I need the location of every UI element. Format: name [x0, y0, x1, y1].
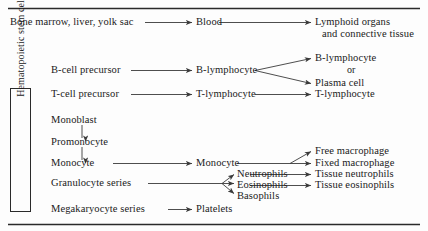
node-t-lymphocyte-mid: T-lymphocyte	[196, 88, 256, 100]
node-platelets: Platelets	[196, 203, 232, 215]
node-fixed-macrophage: Fixed macrophage	[315, 157, 394, 169]
arrow-blymph-to-blymph-end	[255, 59, 311, 71]
node-eosinophils: Eosinophils	[237, 179, 288, 191]
node-t-cell-precursor: T-cell precursor	[51, 88, 119, 100]
node-monocyte-mid: Monocyte	[196, 157, 239, 169]
node-monoblast: Monoblast	[51, 114, 97, 126]
node-basophils: Basophils	[237, 190, 279, 202]
arrow-granulocyte-to-neutrophils	[222, 175, 234, 184]
node-blood: Blood	[196, 16, 222, 28]
node-b-cell-precursor: B-cell precursor	[51, 64, 121, 76]
node-lymphoid-organs-line1: Lymphoid organs	[315, 16, 390, 28]
node-monocyte-left: Monocyte	[51, 157, 94, 169]
arrow-blymph-to-plasma-cell	[255, 71, 311, 84]
node-lymphoid-organs-line2: and connective tissue	[322, 28, 414, 40]
node-plasma-cell: Plasma cell	[315, 77, 364, 89]
arrow-monocyte-to-free-macrophage	[290, 152, 311, 164]
arrow-granulocyte-to-basophils	[222, 184, 234, 194]
node-tissue-eosinophils: Tissue eosinophils	[315, 179, 394, 191]
node-b-lymphocyte-end: B-lymphocyte	[315, 52, 376, 64]
node-neutrophils: Neutrophils	[237, 168, 288, 180]
figure-canvas: Hematopoietic stem cell Bone marrow, liv…	[0, 0, 428, 231]
node-promonocyte: Promonocyte	[51, 136, 108, 148]
node-free-macrophage: Free macrophage	[315, 145, 389, 157]
node-tissue-neutrophils: Tissue neutrophils	[315, 168, 394, 180]
node-b-lymphocyte-mid: B-lymphocyte	[196, 64, 257, 76]
node-granulocyte-series: Granulocyte series	[51, 177, 131, 189]
node-megakaryocyte-series: Megakaryocyte series	[51, 203, 145, 215]
node-or-label: or	[347, 64, 356, 76]
node-t-lymphocyte-end: T-lymphocyte	[315, 88, 375, 100]
node-origin: Bone marrow, liver, yolk sac	[10, 16, 134, 28]
